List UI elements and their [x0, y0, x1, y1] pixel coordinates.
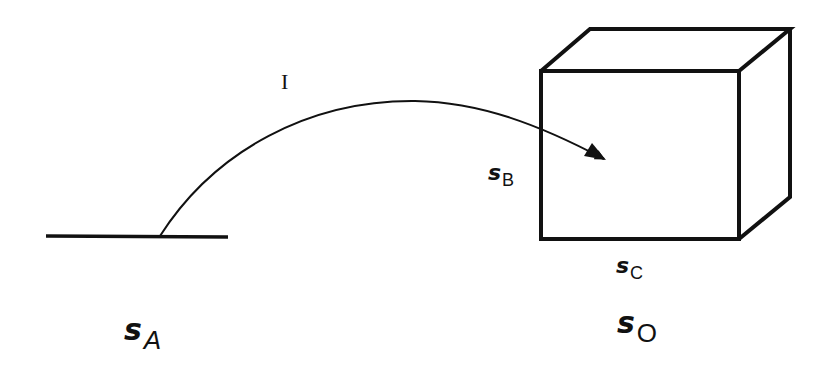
label-s-o-symbol: s: [617, 305, 635, 340]
label-s-o-subscript: O: [637, 318, 657, 348]
label-s-b-symbol: s: [488, 160, 501, 185]
box-object: [541, 29, 790, 239]
arrowhead-icon: [584, 143, 606, 160]
box-side-face: [739, 29, 790, 239]
box-top-face: [541, 29, 790, 71]
path-label-i: I: [281, 69, 288, 95]
label-s-c: sC: [616, 253, 643, 278]
label-s-a-symbol: s: [124, 312, 142, 347]
trajectory-arrow: [160, 101, 604, 236]
label-s-b-subscript: B: [502, 170, 514, 190]
label-s-a-subscript: A: [144, 325, 161, 355]
label-s-a: sA: [124, 312, 161, 347]
label-s-b: sB: [488, 160, 514, 185]
box-front-face: [541, 71, 739, 239]
label-s-c-symbol: s: [616, 253, 629, 278]
label-s-o: sO: [617, 305, 657, 340]
surface-a-line: [46, 236, 228, 237]
label-s-c-subscript: C: [630, 263, 643, 283]
diagram-canvas: I sA sB sC sO: [0, 0, 827, 369]
